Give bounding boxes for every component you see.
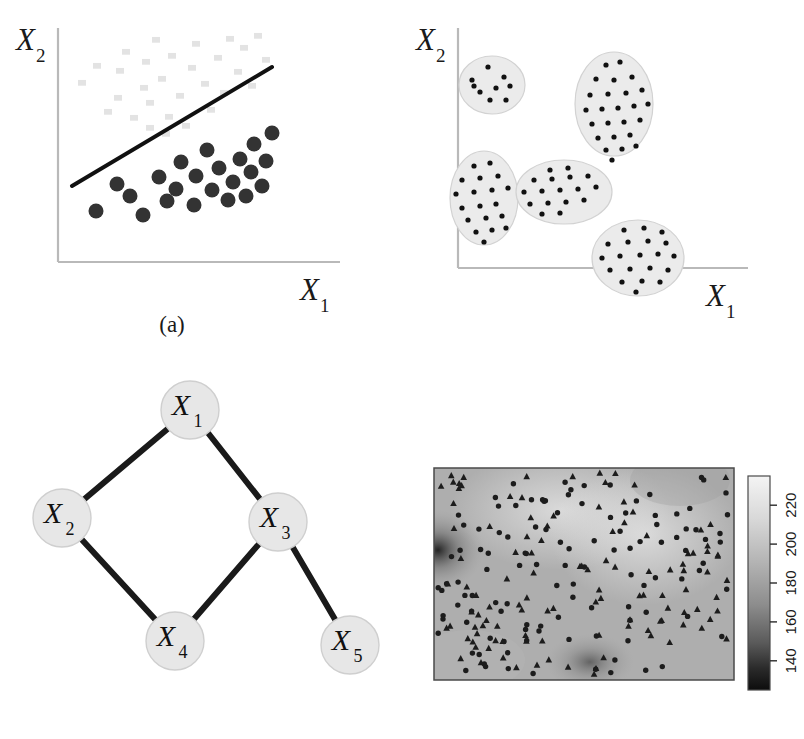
dark-blob-bottom-mid <box>546 634 634 690</box>
cluster-point-marker <box>641 225 646 230</box>
cluster-point-marker <box>493 85 498 90</box>
cluster-point-marker <box>531 177 536 182</box>
cluster-cluster-4 <box>516 160 612 224</box>
circle-marker <box>505 650 510 655</box>
graph-node-subscript: 5 <box>354 646 363 666</box>
circle-marker <box>623 510 628 515</box>
circle-marker <box>461 522 466 527</box>
circle-marker <box>617 529 622 534</box>
dark-circle-marker <box>239 189 254 204</box>
light-square-marker <box>130 115 138 121</box>
cluster-point-marker <box>495 173 500 178</box>
cluster-point-marker <box>599 255 604 260</box>
graph-node-X2[interactable]: X2 <box>33 489 91 547</box>
circle-marker <box>566 492 571 497</box>
graph-node-X1[interactable]: X1 <box>161 381 219 439</box>
circle-marker <box>723 490 728 495</box>
light-square-marker <box>201 81 209 87</box>
dark-circle-marker <box>89 204 104 219</box>
circle-marker <box>436 631 441 636</box>
circle-marker <box>498 609 503 614</box>
circle-marker <box>697 568 702 573</box>
colorbar: 140160180200220 <box>748 476 799 690</box>
graph-node-X3[interactable]: X3 <box>249 493 307 551</box>
dark-circle-marker <box>160 194 175 209</box>
x-axis-label-letter: X <box>298 272 320 307</box>
cluster-point-marker <box>465 217 470 222</box>
light-square-marker <box>158 76 166 82</box>
cluster-point-marker <box>583 107 588 112</box>
dark-circle-marker <box>259 154 274 169</box>
cluster-point-marker <box>489 227 494 232</box>
cluster-point-marker <box>605 91 610 96</box>
circle-marker <box>482 661 487 666</box>
circle-marker <box>463 668 468 673</box>
cluster-point-marker <box>625 239 630 244</box>
circle-marker <box>534 562 539 567</box>
circle-marker <box>687 506 692 511</box>
circle-marker <box>724 587 729 592</box>
graph-node-subscript: 1 <box>194 411 203 431</box>
x-axis-label: X 1 <box>704 278 736 322</box>
circle-marker <box>505 534 510 539</box>
light-square-marker <box>248 83 256 89</box>
circle-marker <box>493 495 498 500</box>
cluster-point-marker <box>623 90 628 95</box>
circle-marker <box>506 666 511 671</box>
circle-marker <box>524 551 529 556</box>
colorbar-ticks: 140160180200220 <box>770 493 799 674</box>
cluster-point-marker <box>485 64 490 69</box>
cluster-ellipse <box>575 52 653 156</box>
cluster-point-marker <box>599 106 604 111</box>
light-square-marker <box>168 53 176 59</box>
circle-marker <box>568 487 573 492</box>
dark-circle-marker <box>212 161 227 176</box>
graph-node-X5[interactable]: X5 <box>321 616 379 674</box>
cluster-point-marker <box>557 210 562 215</box>
circle-marker <box>699 475 704 480</box>
cluster-point-marker <box>631 103 636 108</box>
circle-marker <box>496 503 501 508</box>
circle-marker <box>513 503 518 508</box>
circle-marker <box>626 604 631 609</box>
dark-circle-marker <box>247 137 262 152</box>
cluster-point-marker <box>521 189 526 194</box>
cluster-cluster-5 <box>592 220 684 296</box>
cluster-point-marker <box>603 62 608 67</box>
dark-circle-marker <box>244 165 259 180</box>
cluster-point-marker <box>477 175 482 180</box>
light-square-marker <box>176 93 184 99</box>
circle-marker <box>554 583 559 588</box>
circle-marker <box>679 576 684 581</box>
circle-marker <box>470 650 475 655</box>
cluster-point-marker <box>633 143 638 148</box>
light-square-marker <box>240 45 248 51</box>
cluster-ellipse <box>450 151 518 245</box>
circle-marker <box>440 616 445 621</box>
circle-marker <box>493 600 498 605</box>
cluster-point-marker <box>483 215 488 220</box>
cluster-point-marker <box>639 87 644 92</box>
cluster-ellipse <box>592 220 684 296</box>
dark-circle-marker <box>221 193 236 208</box>
graph-node-X4[interactable]: X4 <box>146 612 204 670</box>
panel-b-cluster-group <box>450 52 684 296</box>
cluster-point-marker <box>639 278 644 283</box>
dark-circle-marker <box>226 175 241 190</box>
cluster-point-marker <box>655 251 660 256</box>
cluster-point-marker <box>471 83 476 88</box>
cluster-point-marker <box>663 240 668 245</box>
y-axis-label: X 2 <box>14 22 46 66</box>
circle-marker <box>464 620 469 625</box>
dark-circle-marker <box>265 126 280 141</box>
cluster-point-marker <box>645 101 650 106</box>
light-square-marker <box>104 109 112 115</box>
graph-node-subscript: 2 <box>66 519 75 539</box>
light-square-marker <box>146 125 154 131</box>
circle-marker <box>543 527 548 532</box>
cluster-point-marker <box>567 174 572 179</box>
light-square-marker <box>116 68 124 74</box>
light-square-marker <box>214 55 222 61</box>
circle-marker <box>486 551 491 556</box>
circle-marker <box>523 627 528 632</box>
